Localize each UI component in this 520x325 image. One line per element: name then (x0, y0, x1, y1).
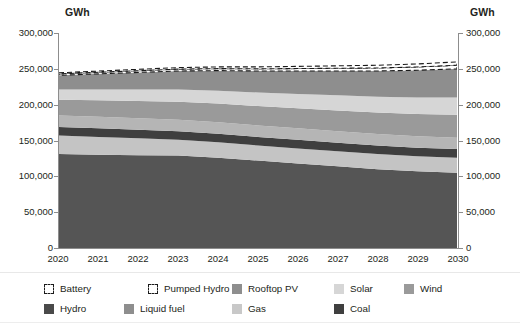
area-series-svg (59, 33, 457, 248)
y-tick-mark (54, 212, 58, 213)
y-axis-label-right: 200,000 (466, 99, 500, 110)
legend-swatch-icon (404, 284, 414, 294)
legend-item-rooftop-pv[interactable]: Rooftop PV (232, 284, 298, 294)
legend-row-1: BatteryPumped HydroRooftop PVSolarWind (0, 281, 520, 301)
legend-item-hydro[interactable]: Hydro (44, 304, 86, 314)
y-tick-mark (54, 105, 58, 106)
y-axis-left-line (58, 33, 59, 249)
legend-label: Solar (350, 284, 373, 294)
legend-label: Gas (248, 304, 266, 314)
y-tick-mark (459, 141, 463, 142)
y-axis-label-left: 300,000 (3, 27, 53, 38)
y-tick-mark (459, 69, 463, 70)
legend-item-gas[interactable]: Gas (232, 304, 266, 314)
legend-divider-bottom (0, 322, 520, 323)
y-tick-mark (459, 212, 463, 213)
y-axis-unit-right: GWh (470, 6, 495, 18)
x-axis-label: 2030 (435, 253, 481, 264)
y-tick-mark (459, 248, 463, 249)
legend-swatch-icon (334, 284, 344, 294)
x-axis-line (58, 248, 459, 249)
legend-swatch-icon (124, 304, 134, 314)
y-axis-label-left: 150,000 (3, 135, 53, 146)
legend-item-liquid-fuel[interactable]: Liquid fuel (124, 304, 185, 314)
y-axis-label-right: 150,000 (466, 135, 500, 146)
legend-swatch-icon (44, 304, 54, 314)
legend-swatch-icon (334, 304, 344, 314)
y-axis-label-right: 300,000 (466, 27, 500, 38)
y-axis-label-left: 100,000 (3, 170, 53, 181)
y-tick-mark (459, 176, 463, 177)
legend-swatch-icon (148, 284, 158, 294)
y-tick-mark (459, 33, 463, 34)
legend-label: Rooftop PV (248, 284, 298, 294)
legend-swatch-icon (232, 284, 242, 294)
y-axis-unit-left: GWh (65, 6, 90, 18)
legend-swatch-icon (232, 304, 242, 314)
legend-label: Coal (350, 304, 370, 314)
y-tick-mark (54, 176, 58, 177)
y-axis-label-right: 50,000 (466, 206, 495, 217)
y-axis-label-left: 250,000 (3, 63, 53, 74)
legend-row-2: HydroLiquid fuelGasCoal (0, 301, 520, 321)
y-tick-mark (54, 248, 58, 249)
y-axis-label-left: 50,000 (3, 206, 53, 217)
legend: BatteryPumped HydroRooftop PVSolarWind H… (0, 281, 520, 321)
legend-item-coal[interactable]: Coal (334, 304, 370, 314)
y-tick-mark (459, 105, 463, 106)
legend-divider-top (0, 272, 520, 273)
y-tick-mark (54, 69, 58, 70)
y-axis-label-right: 100,000 (466, 170, 500, 181)
legend-item-solar[interactable]: Solar (334, 284, 373, 294)
legend-item-battery[interactable]: Battery (44, 284, 91, 294)
legend-item-wind[interactable]: Wind (404, 284, 442, 294)
legend-label: Pumped Hydro (164, 284, 229, 294)
y-tick-mark (54, 141, 58, 142)
legend-label: Liquid fuel (140, 304, 185, 314)
legend-swatch-icon (44, 284, 54, 294)
legend-item-pumped-hydro[interactable]: Pumped Hydro (148, 284, 229, 294)
plot-area (59, 33, 457, 248)
y-axis-label-left: 0 (3, 242, 53, 253)
y-axis-label-right: 0 (466, 242, 471, 253)
y-tick-mark (54, 33, 58, 34)
chart-root: GWh GWh 300,000300,000250,000250,000200,… (0, 0, 520, 325)
legend-label: Wind (420, 284, 442, 294)
stacked-areas (59, 33, 457, 248)
legend-label: Hydro (60, 304, 86, 314)
legend-label: Battery (60, 284, 91, 294)
y-axis-label-left: 200,000 (3, 99, 53, 110)
y-axis-label-right: 250,000 (466, 63, 500, 74)
